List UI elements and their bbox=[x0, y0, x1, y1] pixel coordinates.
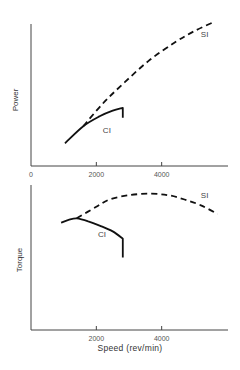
power-series: SICI bbox=[65, 23, 213, 144]
power-series-label-si: SI bbox=[201, 30, 209, 39]
engine-characteristics-chart: Power 020004000 SICI Torque Speed (rev/m… bbox=[0, 0, 240, 370]
torque-x-tick-label-4000: 4000 bbox=[154, 335, 170, 342]
torque-panel: Torque Speed (rev/min) 20004000 SICI bbox=[15, 185, 228, 353]
torque-series-si bbox=[77, 194, 218, 219]
torque-y-axis-label: Torque bbox=[15, 247, 24, 272]
torque-x-ticks: 20004000 bbox=[89, 326, 170, 342]
power-y-axis-label: Power bbox=[11, 88, 20, 111]
power-x-tick-label-4000: 4000 bbox=[154, 171, 170, 178]
power-series-si bbox=[83, 23, 212, 127]
power-x-tick-label-2000: 2000 bbox=[89, 171, 105, 178]
torque-series-label-si: SI bbox=[201, 191, 209, 200]
torque-series-label-ci: CI bbox=[98, 230, 106, 239]
torque-series-ci bbox=[61, 218, 123, 257]
torque-x-axis-label: Speed (rev/min) bbox=[98, 343, 163, 353]
torque-x-tick-label-2000: 2000 bbox=[89, 335, 105, 342]
torque-series: SICI bbox=[61, 191, 217, 257]
power-x-tick-label-0: 0 bbox=[29, 171, 33, 178]
power-x-ticks: 020004000 bbox=[29, 162, 170, 178]
power-series-label-ci: CI bbox=[103, 126, 111, 135]
power-panel: Power 020004000 SICI bbox=[11, 23, 228, 178]
power-series-ci bbox=[65, 108, 123, 144]
